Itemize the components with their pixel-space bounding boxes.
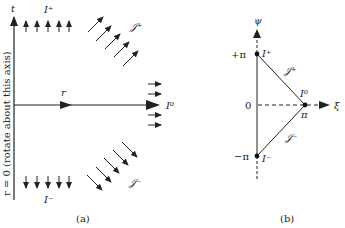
scri-plus-edge-label: 𝒥⁺ bbox=[283, 65, 296, 77]
i-zero-point bbox=[303, 103, 308, 108]
scri-minus-edge bbox=[257, 105, 305, 156]
tick-plus-pi: +π bbox=[231, 49, 246, 60]
panel-b-caption: (b) bbox=[280, 213, 294, 224]
xi-label: ξ bbox=[334, 100, 340, 111]
i-zero-point-label: I⁰ bbox=[299, 88, 308, 99]
r-end-arrowhead bbox=[146, 100, 160, 110]
scri-minus-edge-label: 𝒥⁻ bbox=[284, 132, 297, 144]
i-plus-point bbox=[255, 52, 260, 57]
tick-minus-pi: −π bbox=[234, 151, 249, 162]
i-zero-label: I⁰ bbox=[165, 100, 174, 111]
r-direction-arrowhead bbox=[60, 101, 72, 109]
tick-zero: 0 bbox=[245, 100, 251, 111]
i-minus-point-label: I⁻ bbox=[261, 153, 271, 164]
i-plus-arrows bbox=[26, 21, 69, 32]
i-plus-point-label: I⁺ bbox=[261, 48, 271, 59]
r-label: r bbox=[61, 87, 67, 98]
t-axis-label: t bbox=[11, 3, 16, 14]
pi-label: π bbox=[300, 109, 308, 120]
i-minus-label: I⁻ bbox=[43, 194, 53, 205]
scri-plus-edge bbox=[257, 54, 305, 105]
penrose-diagram-figure: t r = 0 (rotate about this axis) I⁺ 𝒥⁺ r bbox=[0, 0, 345, 228]
i-minus-arrows bbox=[26, 176, 69, 188]
i-plus-label: I⁺ bbox=[43, 4, 53, 15]
panel-a: t r = 0 (rotate about this axis) I⁺ 𝒥⁺ r bbox=[1, 3, 174, 224]
scri-minus-label: 𝒥⁻ bbox=[128, 177, 141, 189]
panel-b: ψ ξ +π 0 −π I⁺ I⁰ I⁻ π 𝒥⁺ 𝒥⁻ (b) bbox=[231, 15, 340, 224]
psi-arrowhead bbox=[253, 29, 261, 38]
r0-axis-label: r = 0 (rotate about this axis) bbox=[1, 51, 12, 196]
psi-label: ψ bbox=[254, 15, 262, 26]
i-minus-point bbox=[255, 154, 260, 159]
scri-plus-label: 𝒥⁺ bbox=[129, 21, 142, 33]
xi-arrowhead bbox=[319, 101, 330, 109]
panel-a-caption: (a) bbox=[76, 213, 90, 224]
